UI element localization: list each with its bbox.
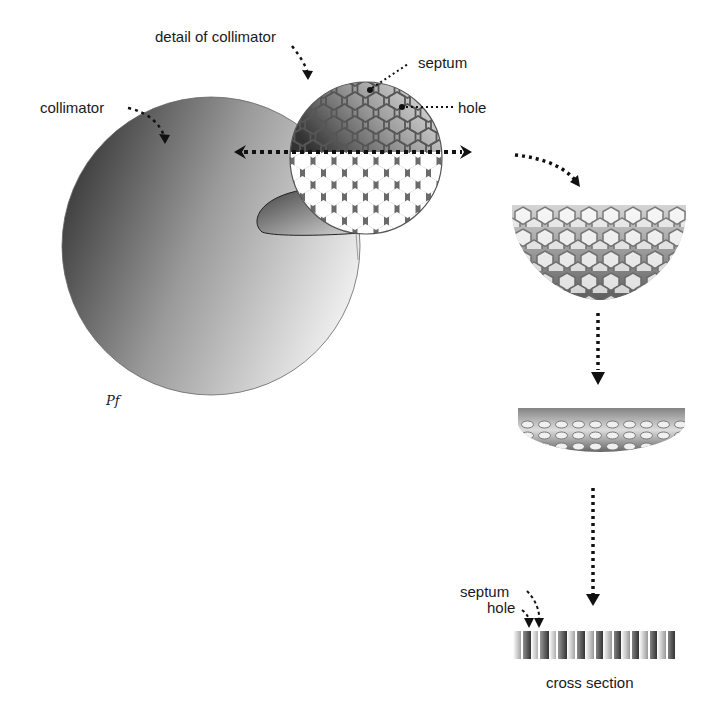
- to-cup-arrow-icon: [515, 155, 575, 180]
- collimator-cup-3d: [510, 200, 690, 305]
- cross-section-bar: [513, 631, 675, 659]
- hole-label: hole: [458, 99, 486, 116]
- detail-label: detail of collimator: [155, 28, 276, 45]
- collimator-diagram: [0, 0, 707, 714]
- hole-label-bottom: hole: [487, 599, 515, 616]
- septum-label-bottom: septum: [460, 583, 509, 600]
- collimator-label: collimator: [40, 99, 104, 116]
- collimator-cup-flat: [515, 405, 690, 455]
- bottom-septum-arrow-icon: [527, 591, 539, 620]
- cross-section-label: cross section: [546, 674, 634, 691]
- detail-arrow-icon: [292, 46, 308, 74]
- septum-label: septum: [418, 54, 467, 71]
- signature: Pf: [106, 392, 120, 409]
